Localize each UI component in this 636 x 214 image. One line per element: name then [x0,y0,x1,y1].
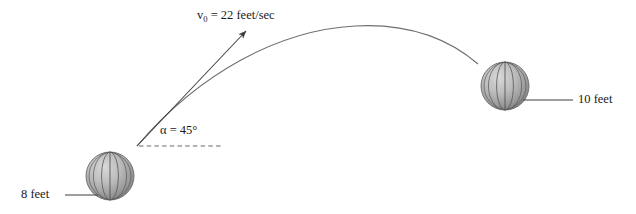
right-height-label: 10 feet [578,93,612,106]
velocity-label: v0 = 22 feet/sec [197,9,275,22]
velocity-subscript: 0 [203,14,207,24]
right-beach-ball [481,62,529,110]
figure-vector-layer [0,0,636,214]
left-height-label: 8 feet [21,188,49,201]
projectile-motion-figure: v0 = 22 feet/sec α = 45° 8 feet 10 feet [0,0,636,214]
angle-label: α = 45° [160,124,197,137]
left-beach-ball [86,152,134,200]
velocity-equation: = 22 feet/sec [208,8,275,22]
